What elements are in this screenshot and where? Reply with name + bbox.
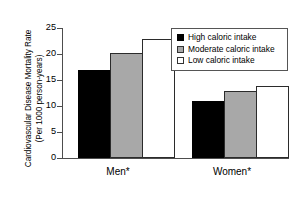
legend: High caloric intake Moderate caloric int… [171,28,288,71]
y-axis-tick-label: 0 [30,153,56,162]
y-axis-tick-label: 5 [30,127,56,136]
x-axis-group-label-women: Women* [176,166,288,177]
legend-item-moderate: Moderate caloric intake [177,44,283,56]
bar-moderate-women [224,91,257,158]
bar-low-women [256,86,289,158]
y-axis-tick-label: 20 [30,49,56,58]
legend-swatch-high-icon [177,34,184,41]
legend-item-high: High caloric intake [177,32,283,44]
legend-swatch-moderate-icon [177,46,184,53]
y-axis-tick [57,158,62,159]
bar-moderate-men [110,53,143,158]
legend-label-moderate: Moderate caloric intake [188,45,275,54]
legend-item-low: Low caloric intake [177,55,283,67]
bar-high-men [78,70,111,158]
legend-label-low: Low caloric intake [188,56,255,65]
y-axis-tick-label: 25 [30,23,56,32]
x-axis-line [62,158,289,159]
x-axis-group-label-men: Men* [62,166,174,177]
y-axis-label: Cardiovascular Disease Mortality Rate (P… [0,0,34,206]
bar-high-women [192,101,225,158]
bar-chart-figure: Cardiovascular Disease Mortality Rate (P… [0,0,292,206]
y-axis-tick-label: 10 [30,101,56,110]
legend-swatch-low-icon [177,57,184,64]
y-axis-tick-label: 15 [30,75,56,84]
legend-label-high: High caloric intake [188,33,256,42]
